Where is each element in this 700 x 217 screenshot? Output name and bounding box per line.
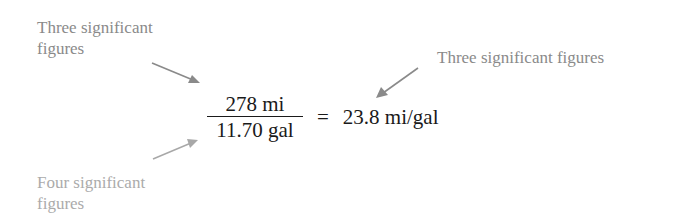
label-line: figures xyxy=(37,193,145,214)
fraction: 278 mi 11.70 gal xyxy=(207,93,303,142)
equals-sign: = xyxy=(317,105,329,130)
denominator: 11.70 gal xyxy=(214,117,295,142)
label-line: Three significant figures xyxy=(437,47,604,68)
mileage-equation: 278 mi 11.70 gal = 23.8 mi/gal xyxy=(207,93,439,142)
label-denominator-sig-figs: Four significant figures xyxy=(37,172,145,214)
label-line: figures xyxy=(37,38,153,59)
label-numerator-sig-figs: Three significant figures xyxy=(37,17,153,59)
result: 23.8 mi/gal xyxy=(343,105,439,130)
label-result-sig-figs: Three significant figures xyxy=(437,47,604,68)
label-line: Four significant xyxy=(37,172,145,193)
label-line: Three significant xyxy=(37,17,153,38)
arrow-to-denominator-icon xyxy=(153,139,198,159)
numerator: 278 mi xyxy=(224,93,287,116)
arrow-to-numerator-icon xyxy=(152,63,200,83)
